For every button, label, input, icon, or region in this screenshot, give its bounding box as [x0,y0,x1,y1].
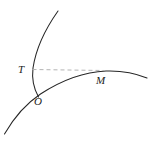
dashed-tangent-line [33,70,105,71]
point-label-m: M [96,75,105,86]
point-label-o: O [34,96,42,107]
point-label-t: T [18,64,24,75]
geometry-figure: T O M [0,0,153,145]
steep-curve [33,11,58,97]
main-arc [5,71,148,134]
